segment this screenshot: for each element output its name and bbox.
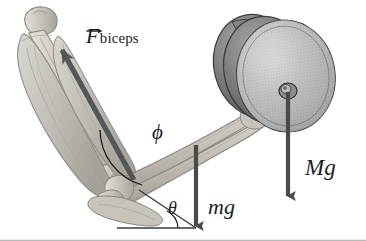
vector-arrow-accent-icon — [86, 26, 103, 34]
force-biceps-label: F biceps — [86, 26, 139, 47]
weight-Mg-label: Mg — [305, 156, 336, 179]
weight-plate-stack — [203, 5, 343, 138]
angle-theta-label: θ — [168, 199, 177, 217]
hand-wedge — [88, 196, 163, 226]
angle-phi-label: ϕ — [152, 122, 163, 143]
physics-diagram-figure: F biceps ϕ θ mg Mg — [0, 0, 366, 241]
weight-mg-label: mg — [208, 196, 235, 218]
diagram-canvas — [0, 0, 366, 241]
force-symbol-F: F — [86, 26, 100, 47]
force-subscript-biceps: biceps — [100, 30, 139, 46]
